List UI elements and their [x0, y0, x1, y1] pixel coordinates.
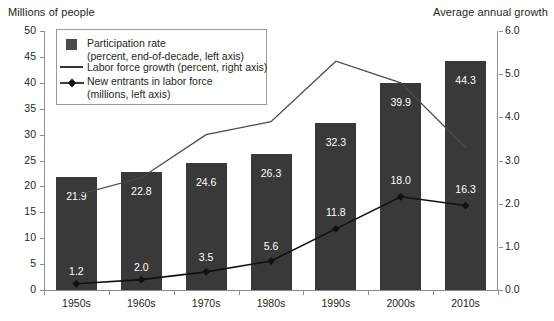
legend-label-labor-force-growth: Labor force growth (percent, right axis): [87, 61, 267, 73]
marker-new-entrants-1990s: [332, 225, 340, 233]
marker-new-entrants-2010s: [462, 202, 470, 210]
marker-new-entrants-1960s: [137, 276, 145, 284]
chart-legend: Participation rate (percent, end-of-deca…: [56, 29, 267, 105]
legend-swatch-participation-rate: [66, 39, 77, 50]
chart-container: Millions of people Average annual growth…: [0, 0, 554, 321]
new-entrants-label-1950s: 1.2: [50, 265, 102, 277]
new-entrants-label-1990s: 11.8: [310, 206, 362, 218]
legend-label-participation-rate: Participation rate: [87, 37, 166, 49]
marker-new-entrants-1970s: [202, 268, 210, 276]
new-entrants-label-1980s: 5.6: [245, 240, 297, 252]
marker-new-entrants-2000s: [397, 193, 405, 201]
legend-line-diamond-new-entrants: [59, 76, 85, 90]
marker-new-entrants-1950s: [73, 280, 81, 288]
legend-label-new-entrants: New entrants in labor force: [87, 75, 212, 87]
legend-line-labor-force-growth: [60, 66, 83, 68]
new-entrants-label-2000s: 18.0: [375, 174, 427, 186]
legend-sublabel-new-entrants: (millions, left axis): [87, 88, 170, 100]
new-entrants-label-1960s: 2.0: [115, 261, 167, 273]
marker-new-entrants-1980s: [267, 257, 275, 265]
new-entrants-label-2010s: 16.3: [440, 183, 492, 195]
new-entrants-label-1970s: 3.5: [180, 251, 232, 263]
